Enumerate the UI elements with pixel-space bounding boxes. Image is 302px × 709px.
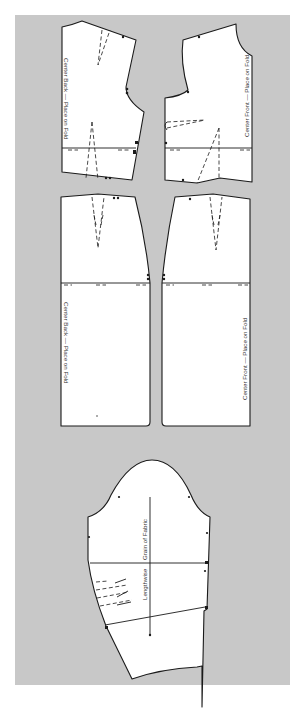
back-bodice-fold-label: Center Back — Place on Fold (63, 58, 70, 140)
sleeve-lengthwise-label: Lengthwise (141, 568, 148, 600)
sleeve-piece: Grain of Fabric Lengthwise (88, 460, 210, 707)
front-skirt-piece: Center Front — Place on Fold (162, 194, 250, 426)
front-bodice-piece: Center Front — Place on Fold (165, 24, 252, 183)
back-skirt-piece: Center Back — Place on Fold (61, 194, 150, 426)
front-bodice-fold-label: Center Front — Place on Fold (243, 54, 250, 137)
back-bodice-piece: Center Back — Place on Fold (62, 21, 144, 180)
front-skirt-fold-label: Center Front — Place on Fold (241, 317, 248, 400)
back-skirt-fold-label: Center Back — Place on Fold (63, 302, 70, 384)
sewing-pattern-diagram: Center Back — Place on Fold Center Front… (0, 0, 302, 709)
sleeve-grain-label: Grain of Fabric (141, 519, 148, 560)
